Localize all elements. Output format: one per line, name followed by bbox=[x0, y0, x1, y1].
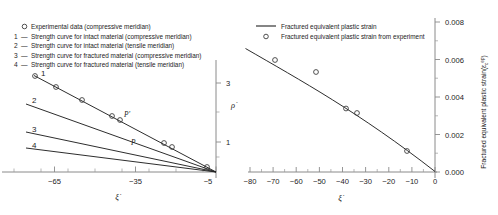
right-y-major-ticks bbox=[435, 22, 440, 172]
right-x-tick-label--70: −70 bbox=[267, 177, 280, 186]
right-x-tick-label--60: −60 bbox=[290, 177, 303, 186]
right-chart-panel: Fractured equivalent plastic strain Frac… bbox=[240, 0, 498, 215]
right-y-tick-label-0000: 0.000 bbox=[445, 168, 464, 177]
legend-label-2: Strength curve for intact material (tens… bbox=[31, 42, 174, 50]
legend-dash-1: — bbox=[21, 33, 28, 40]
figure-root: Experimental data (compressive meridian)… bbox=[0, 0, 498, 215]
right-x-tick-label--40: −40 bbox=[336, 177, 349, 186]
curve-1-intact-compressive bbox=[34, 76, 216, 173]
left-strength-curves bbox=[26, 76, 216, 173]
left-x-tick-label--35: −35 bbox=[129, 177, 142, 186]
right-x-major-ticks bbox=[250, 167, 435, 172]
legend-label-3: Strength curve for fractured material (c… bbox=[31, 52, 201, 60]
left-legend: Experimental data (compressive meridian)… bbox=[14, 23, 201, 69]
legend-label-fractured-strain-experiment: Fractured equivalent plastic strain from… bbox=[281, 33, 425, 41]
right-y-tick-label-0002: 0.002 bbox=[445, 131, 464, 140]
right-x-tick-label--30: −30 bbox=[359, 177, 372, 186]
left-y-tick-label-3: 3 bbox=[226, 79, 230, 88]
right-x-tick-label--10: −10 bbox=[405, 177, 418, 186]
right-y-axis-title: Fractured equivalent plastic strain(εcep… bbox=[480, 55, 489, 168]
point-label-P-prime: P' bbox=[123, 110, 131, 119]
legend-marker-experiment-icon bbox=[264, 34, 269, 39]
curve-label-2: 2 bbox=[32, 96, 37, 105]
curve-label-3: 3 bbox=[32, 125, 37, 134]
right-y-tick-label-0004: 0.004 bbox=[445, 93, 464, 102]
right-y-axis-title-text: Fractured equivalent plastic strain bbox=[480, 70, 488, 169]
legend-key-3: 3 bbox=[14, 52, 18, 59]
data-point bbox=[314, 70, 319, 75]
left-x-tick-label--65: −65 bbox=[48, 177, 61, 186]
right-chart-svg: Fractured equivalent plastic strain Frac… bbox=[240, 0, 498, 215]
left-x-tick-label--5: −5 bbox=[204, 177, 213, 186]
left-chart-svg: Experimental data (compressive meridian)… bbox=[0, 0, 250, 215]
legend-dash-4: — bbox=[21, 61, 28, 68]
data-point bbox=[273, 58, 278, 63]
right-legend: Fractured equivalent plastic strain Frac… bbox=[256, 23, 425, 42]
legend-label-4: Strength curve for fractured material (t… bbox=[31, 61, 184, 69]
legend-dash-2: — bbox=[21, 42, 28, 49]
curve-label-4: 4 bbox=[32, 141, 37, 150]
curve-label-1: 1 bbox=[41, 69, 46, 78]
left-x-minor-ticks bbox=[14, 169, 203, 173]
left-chart-panel: Experimental data (compressive meridian)… bbox=[0, 0, 250, 215]
right-x-tick-label--80: −80 bbox=[244, 177, 257, 186]
right-y-tick-label-0006: 0.006 bbox=[445, 56, 464, 65]
legend-label-experimental: Experimental data (compressive meridian) bbox=[31, 23, 151, 31]
legend-label-fractured-strain: Fractured equivalent plastic strain bbox=[281, 23, 377, 31]
point-label-P: P bbox=[130, 138, 136, 147]
left-x-axis-title: ξ̇ bbox=[115, 193, 122, 202]
legend-key-2: 2 bbox=[14, 42, 18, 49]
data-point bbox=[355, 111, 360, 116]
right-x-tick-label--50: −50 bbox=[313, 177, 326, 186]
legend-key-1: 1 bbox=[14, 33, 18, 40]
legend-dash-3: — bbox=[21, 52, 28, 59]
left-y-ticks bbox=[216, 83, 221, 157]
legend-key-4: 4 bbox=[14, 61, 18, 68]
right-x-tick-label--20: −20 bbox=[382, 177, 395, 186]
legend-label-1: Strength curve for intact material (comp… bbox=[31, 33, 192, 41]
legend-marker-experimental-icon bbox=[22, 24, 27, 29]
right-x-axis-title: ξ̇ bbox=[338, 194, 345, 203]
left-y-tick-label-1: 1 bbox=[226, 138, 230, 147]
left-y-axis-title: ρ̇ bbox=[230, 101, 238, 110]
right-x-tick-label-0: 0 bbox=[433, 177, 437, 186]
right-y-tick-label-0008: 0.008 bbox=[445, 18, 464, 27]
